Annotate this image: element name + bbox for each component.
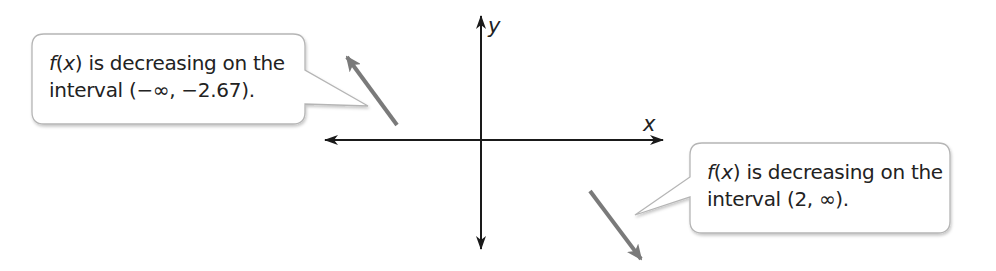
diagram-canvas <box>0 0 996 271</box>
callout-left-line1: f(x) is decreasing on the <box>49 50 285 77</box>
callout-left-text: f(x) is decreasing on the interval (−∞, … <box>49 50 285 104</box>
y-axis-label: y <box>488 14 500 38</box>
callout-left-line2: interval (−∞, −2.67). <box>49 77 285 104</box>
function-variable: x <box>721 160 733 184</box>
function-name: f <box>707 160 714 184</box>
decreasing-arrow-left <box>347 57 397 125</box>
function-name: f <box>49 51 56 75</box>
callout-left-line1-rest: is decreasing on the <box>82 51 285 75</box>
callout-right-line2: interval (2, ∞). <box>707 186 943 213</box>
callout-right-line1-rest: is decreasing on the <box>740 160 943 184</box>
x-axis-label: x <box>643 112 655 136</box>
decreasing-arrow-right <box>590 191 641 259</box>
callout-right-text: f(x) is decreasing on the interval (2, ∞… <box>707 159 943 213</box>
function-variable: x <box>63 51 75 75</box>
callout-right-line1: f(x) is decreasing on the <box>707 159 943 186</box>
